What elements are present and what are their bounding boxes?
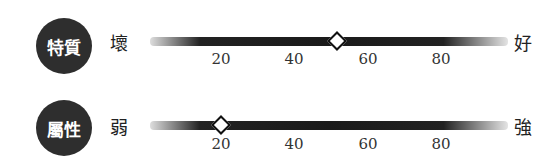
high-label: 好 — [514, 29, 532, 55]
tick-label: 60 — [358, 50, 377, 68]
low-label: 壞 — [110, 29, 128, 55]
tick-label: 20 — [211, 135, 230, 153]
scale-row-trait: 特質 壞 好 20 40 60 80 — [0, 0, 551, 80]
value-marker-diamond-icon[interactable] — [327, 31, 347, 51]
tick-label: 20 — [211, 50, 230, 68]
scale-row-attribute: 屬性 弱 強 20 40 60 80 — [0, 80, 551, 160]
attribute-badge: 屬性 — [36, 100, 92, 156]
tick-label: 60 — [358, 135, 377, 153]
value-marker-diamond-icon[interactable] — [211, 115, 231, 135]
trait-badge: 特質 — [36, 18, 92, 74]
tick-label: 80 — [431, 50, 450, 68]
slider-track[interactable] — [150, 121, 508, 130]
tick-label: 40 — [284, 50, 303, 68]
high-label: 強 — [514, 113, 532, 139]
low-label: 弱 — [110, 113, 128, 139]
tick-label: 40 — [284, 135, 303, 153]
tick-label: 80 — [431, 135, 450, 153]
